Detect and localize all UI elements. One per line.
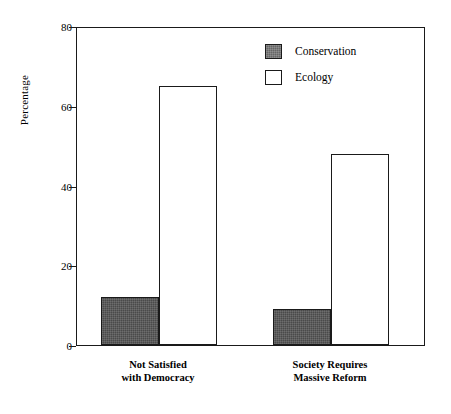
- chart-legend: Conservation Ecology: [265, 40, 356, 92]
- bar-ecology-group-2: [331, 154, 389, 345]
- y-tick-mark: [69, 346, 76, 347]
- bar-ecology-group-1: [159, 86, 217, 345]
- y-axis-title: Percentage: [14, 40, 34, 160]
- y-tick-mark: [69, 187, 76, 188]
- y-tick-mark: [69, 266, 76, 267]
- conservation-swatch-icon: [265, 44, 282, 59]
- ecology-swatch-icon: [265, 70, 282, 85]
- bar-conservation-group-1: [101, 297, 159, 345]
- plot-area: Conservation Ecology: [76, 27, 425, 346]
- y-tick-mark: [69, 107, 76, 108]
- legend-label-conservation: Conservation: [295, 45, 356, 57]
- legend-label-ecology: Ecology: [295, 71, 333, 83]
- y-tick-mark: [69, 27, 76, 28]
- x-category-label-1: Not Satisfied with Democracy: [78, 358, 238, 384]
- bar-conservation-group-2: [273, 309, 331, 345]
- legend-item-ecology: Ecology: [265, 66, 356, 88]
- legend-item-conservation: Conservation: [265, 40, 356, 62]
- x-category-label-2: Society Requires Massive Reform: [250, 358, 410, 384]
- bar-chart-figure: Percentage 020406080 Conservation Ecolog…: [0, 0, 451, 414]
